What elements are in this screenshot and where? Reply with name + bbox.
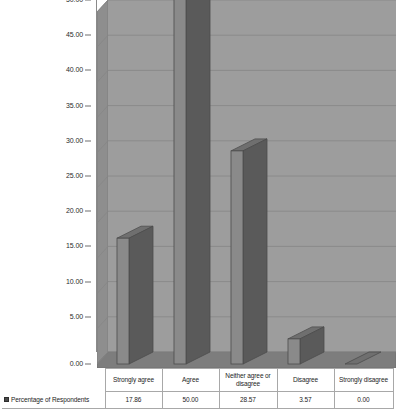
y-tick-label: 15.00: [66, 242, 83, 250]
table-row: Percentage of Respondents 17.86 50.00 28…: [2, 392, 393, 409]
chart-3d-bar: 50.00 45.00 40.00 35.00 30.00 25.00 20.0…: [0, 0, 396, 414]
y-tick-label: 40.00: [66, 66, 83, 74]
column-header-agree: Agree: [162, 369, 219, 392]
y-tick-label: 30.00: [66, 137, 83, 145]
y-tick-label: 45.00: [66, 31, 83, 39]
value-strongly-agree: 17.86: [105, 392, 162, 409]
bar-disagree[interactable]: [288, 327, 324, 364]
legend-swatch-icon: [4, 397, 9, 402]
y-tick-label: 5.00: [70, 313, 83, 321]
bar-neither-agree-or-disagree[interactable]: [231, 139, 267, 364]
y-tick-label: 0.00: [70, 360, 83, 368]
value-agree: 50.00: [162, 392, 219, 409]
legend-label: Percentage of Respondents: [11, 396, 89, 403]
column-header-strongly-agree: Strongly agree: [105, 369, 162, 392]
value-disagree: 3.57: [277, 392, 334, 409]
data-table: Strongly agree Agree Neither agree or di…: [2, 368, 394, 409]
y-tick-label: 25.00: [66, 172, 83, 180]
bar-strongly-agree[interactable]: [117, 226, 153, 364]
column-header-neither-agree-or-disagree: Neither agree or disagree: [219, 369, 277, 392]
y-tick-label: 35.00: [66, 102, 83, 110]
y-tick-label: 20.00: [66, 207, 83, 215]
bar-strongly-disagree[interactable]: [345, 352, 381, 364]
table-header-row: Strongly agree Agree Neither agree or di…: [2, 369, 393, 392]
bars-layer: [97, 0, 396, 368]
value-neither-agree-or-disagree: 28.57: [219, 392, 277, 409]
y-axis: 50.00 45.00 40.00 35.00 30.00 25.00 20.0…: [0, 0, 97, 372]
column-header-disagree: Disagree: [277, 369, 334, 392]
y-tick-label: 50.00: [66, 0, 83, 4]
y-tick-label: 10.00: [66, 278, 83, 286]
column-header-strongly-disagree: Strongly disagree: [334, 369, 393, 392]
table-corner-blank: [2, 369, 105, 392]
value-strongly-disagree: 0.00: [334, 392, 393, 409]
legend-entry: Percentage of Respondents: [2, 392, 105, 409]
bar-agree[interactable]: [174, 0, 210, 364]
plot-area: [97, 0, 396, 368]
